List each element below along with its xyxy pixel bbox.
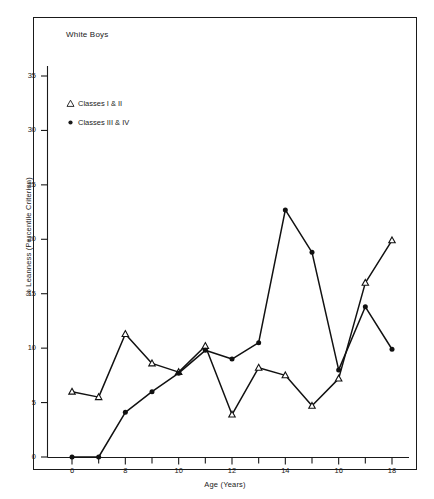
data-point-filled-circle: [336, 367, 341, 372]
x-tick-label: 14: [270, 466, 300, 475]
y-axis-ticks: [41, 76, 48, 457]
data-point-filled-circle: [230, 357, 235, 362]
y-tick-label: 15: [8, 289, 36, 298]
data-point-filled-circle: [363, 304, 368, 309]
data-point-filled-circle: [203, 348, 208, 353]
x-tick-label: 10: [164, 466, 194, 475]
x-tick-label: 18: [377, 466, 407, 475]
x-tick-label: 6: [57, 466, 87, 475]
series-line: [72, 240, 392, 414]
data-point-open-triangle: [202, 343, 208, 349]
series-classes-3-4: [70, 207, 395, 459]
figure-container: White Boys Classes I & II Classes III & …: [0, 0, 434, 499]
x-tick-label: 8: [110, 466, 140, 475]
x-axis-ticks: [72, 458, 392, 465]
y-tick-label: 10: [8, 343, 36, 352]
y-tick-label: 25: [8, 180, 36, 189]
x-tick-label: 16: [324, 466, 354, 475]
data-point-filled-circle: [96, 455, 101, 460]
data-point-filled-circle: [70, 455, 75, 460]
data-point-open-triangle: [389, 237, 395, 243]
data-point-open-triangle: [122, 331, 128, 337]
data-point-open-triangle: [69, 388, 75, 394]
data-point-filled-circle: [310, 250, 315, 255]
y-tick-label: 20: [8, 234, 36, 243]
y-tick-label: 35: [8, 71, 36, 80]
data-point-filled-circle: [256, 340, 261, 345]
data-point-filled-circle: [390, 347, 395, 352]
data-series-layer: [69, 207, 395, 459]
series-line: [72, 210, 392, 457]
data-point-filled-circle: [176, 371, 181, 376]
y-tick-label: 30: [8, 125, 36, 134]
y-tick-label: 5: [8, 398, 36, 407]
data-point-filled-circle: [150, 389, 155, 394]
plot-area: [0, 0, 434, 499]
data-point-open-triangle: [255, 364, 261, 370]
x-tick-label: 12: [217, 466, 247, 475]
data-point-filled-circle: [123, 410, 128, 415]
data-point-filled-circle: [283, 207, 288, 212]
y-tick-label: 0: [8, 452, 36, 461]
data-point-open-triangle: [335, 375, 341, 381]
series-classes-1-2: [69, 237, 395, 417]
